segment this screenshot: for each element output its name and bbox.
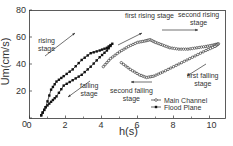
data-point — [108, 47, 110, 49]
data-point — [122, 63, 124, 65]
legend-marker-main-channel — [155, 99, 158, 102]
data-point — [75, 65, 77, 67]
data-point — [112, 56, 114, 58]
data-point — [63, 75, 65, 77]
data-point — [66, 73, 68, 75]
data-point — [172, 66, 174, 68]
data-point — [81, 59, 83, 61]
data-point — [87, 54, 89, 56]
legend-marker-flood-plane — [155, 106, 157, 108]
data-point — [109, 57, 111, 59]
y-tick-label: 60 — [16, 32, 26, 42]
legend-label-main-channel: Main Channel — [164, 97, 207, 104]
data-point — [103, 52, 105, 54]
data-point — [170, 67, 172, 69]
data-point — [42, 111, 44, 113]
data-point — [72, 68, 74, 70]
data-point — [96, 50, 98, 52]
data-point — [81, 74, 83, 76]
data-point — [50, 88, 52, 90]
annotation-label: risingstage — [38, 37, 55, 52]
y-tick-label: 80 — [16, 5, 26, 15]
data-point — [194, 55, 196, 57]
data-point — [84, 57, 86, 59]
data-point — [183, 60, 185, 62]
data-point — [101, 48, 103, 50]
annotation-label: first rising stage — [125, 12, 174, 20]
data-point — [120, 61, 122, 63]
x-tick-label: 0 — [27, 120, 32, 130]
y-axis-label: Um(cm/s) — [2, 38, 9, 86]
data-point — [175, 64, 177, 66]
data-point — [60, 88, 62, 90]
data-point — [114, 54, 116, 56]
data-point — [87, 68, 89, 70]
data-point — [116, 52, 118, 54]
annotation-label: first fallingstage — [187, 72, 219, 87]
data-point — [178, 63, 180, 65]
data-point — [93, 51, 95, 53]
x-tick-label: 10 — [207, 120, 217, 130]
data-point — [199, 52, 201, 54]
data-point — [106, 49, 108, 51]
data-point — [205, 49, 207, 51]
data-point — [96, 59, 98, 61]
annotation-label: second fallingstage — [110, 87, 153, 102]
y-tick-label: 0 — [22, 119, 27, 129]
data-point — [202, 51, 204, 53]
data-point — [186, 59, 188, 61]
data-point — [69, 81, 71, 83]
legend-label-flood-plane: Flood Plane — [164, 104, 201, 111]
y-tick-label: 20 — [16, 86, 26, 96]
data-point — [129, 68, 131, 70]
data-point — [189, 57, 191, 59]
data-point — [72, 79, 74, 81]
data-point — [48, 94, 50, 96]
data-point — [46, 100, 48, 102]
data-point — [78, 75, 80, 77]
data-point — [52, 86, 54, 88]
y-tick-label: 40 — [16, 59, 26, 69]
data-point — [197, 53, 199, 55]
data-point — [75, 77, 77, 79]
data-point — [40, 114, 42, 116]
data-point — [106, 61, 108, 63]
data-point — [99, 56, 101, 58]
x-axis-label: h(s) — [119, 128, 138, 135]
data-point — [60, 77, 62, 79]
data-point — [45, 106, 47, 108]
data-point — [167, 68, 169, 70]
data-point — [54, 83, 56, 85]
annotation-label: second risingstage — [178, 11, 219, 26]
annotation-label: fallingstage — [80, 82, 98, 97]
data-point — [93, 62, 95, 64]
data-point — [84, 71, 86, 73]
data-point — [90, 66, 92, 68]
data-point — [127, 67, 129, 69]
data-point — [164, 70, 166, 72]
data-point — [101, 54, 103, 56]
data-point — [90, 52, 92, 54]
x-tick-label: 4 — [99, 120, 104, 130]
data-point — [180, 61, 182, 63]
x-tick-label: 2 — [63, 120, 68, 130]
data-point — [55, 80, 57, 82]
data-point — [69, 70, 71, 72]
data-point — [78, 62, 80, 64]
data-point — [108, 59, 110, 61]
data-point — [58, 92, 60, 94]
data-point — [104, 63, 106, 65]
data-point — [66, 83, 68, 85]
data-point — [58, 79, 60, 81]
data-point — [109, 45, 111, 47]
data-point — [103, 48, 105, 50]
data-point — [43, 109, 45, 111]
x-tick-label: 8 — [171, 120, 176, 130]
data-point — [99, 49, 101, 51]
data-point — [111, 43, 113, 45]
data-point — [191, 56, 193, 58]
data-point — [63, 84, 65, 86]
data-point — [125, 65, 127, 67]
data-point — [102, 66, 104, 68]
